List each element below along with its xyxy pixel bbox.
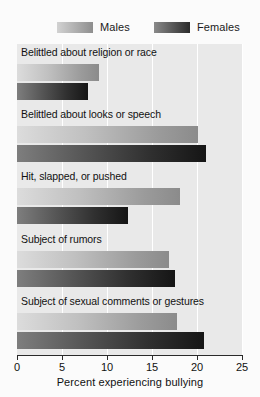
x-tick-label: 15 bbox=[146, 361, 158, 373]
category-label: Hit, slapped, or pushed bbox=[21, 170, 127, 182]
x-tick bbox=[62, 355, 63, 360]
bar-group: Subject of rumors bbox=[17, 231, 242, 293]
plot-area: Belittled about religion or raceBelittle… bbox=[17, 44, 242, 355]
legend-swatch-males-icon bbox=[57, 22, 93, 33]
bar-females bbox=[17, 145, 206, 162]
legend-entry-males: Males bbox=[57, 16, 130, 38]
x-axis: 0510152025 bbox=[17, 355, 242, 375]
x-tick-label: 10 bbox=[101, 361, 113, 373]
x-tick bbox=[107, 355, 108, 360]
bar-males bbox=[17, 64, 99, 81]
x-tick bbox=[242, 355, 243, 360]
category-label: Subject of sexual comments or gestures bbox=[21, 295, 204, 307]
legend-label-females: Females bbox=[197, 21, 240, 33]
bar-females bbox=[17, 332, 204, 349]
category-label: Belittled about religion or race bbox=[21, 46, 157, 58]
bar-males bbox=[17, 126, 198, 143]
legend-swatch-females-icon bbox=[154, 22, 190, 33]
legend-entry-females: Females bbox=[154, 16, 240, 38]
bar-males bbox=[17, 313, 177, 330]
x-tick-label: 20 bbox=[191, 361, 203, 373]
bar-males bbox=[17, 251, 169, 268]
x-tick-label: 25 bbox=[236, 361, 248, 373]
category-label: Belittled about looks or speech bbox=[21, 108, 161, 120]
gridline bbox=[242, 44, 243, 355]
chart-legend: Males Females bbox=[17, 16, 242, 38]
bar-females bbox=[17, 83, 88, 100]
bar-group: Hit, slapped, or pushed bbox=[17, 168, 242, 230]
bar-groups: Belittled about religion or raceBelittle… bbox=[17, 44, 242, 355]
x-axis-label: Percent experiencing bullying bbox=[0, 376, 260, 388]
legend-label-males: Males bbox=[100, 21, 130, 33]
x-tick bbox=[197, 355, 198, 360]
bullying-bar-chart: Males Females Belittled about religion o… bbox=[0, 0, 260, 397]
x-axis-line bbox=[17, 355, 242, 356]
bar-group: Belittled about looks or speech bbox=[17, 106, 242, 168]
category-label: Subject of rumors bbox=[21, 233, 102, 245]
bar-group: Subject of sexual comments or gestures bbox=[17, 293, 242, 355]
bar-group: Belittled about religion or race bbox=[17, 44, 242, 106]
bar-males bbox=[17, 188, 180, 205]
bar-females bbox=[17, 270, 175, 287]
x-tick-label: 0 bbox=[14, 361, 20, 373]
x-tick bbox=[17, 355, 18, 360]
x-tick bbox=[152, 355, 153, 360]
bar-females bbox=[17, 207, 128, 224]
x-tick-label: 5 bbox=[59, 361, 65, 373]
